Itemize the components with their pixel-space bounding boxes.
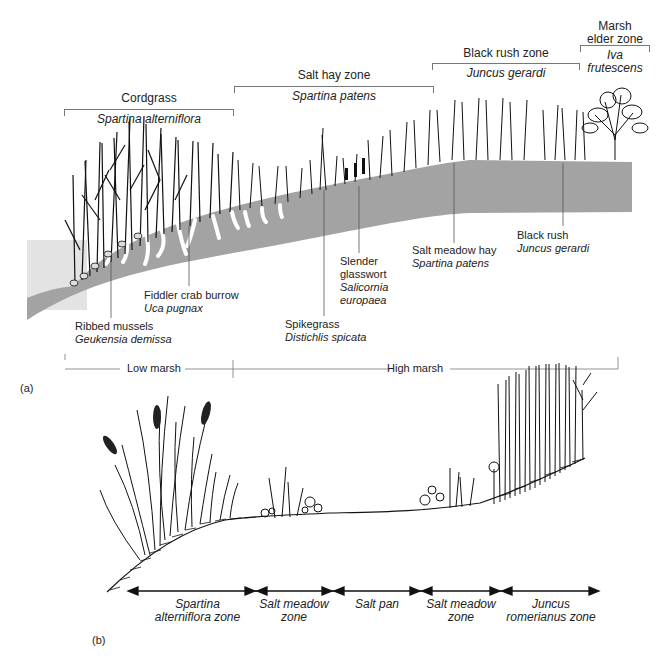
zone-b-salt-meadow-right-line2: zone <box>421 611 501 624</box>
zone-b-spartina-line2: alterniflora zone <box>140 611 255 624</box>
zone-b-juncus-line2: romerianus zone <box>501 611 601 624</box>
zone-b-salt-meadow-left-line2: zone <box>255 611 333 624</box>
zone-arrows <box>0 0 665 666</box>
zone-b-salt-pan: Salt pan <box>333 598 421 611</box>
panel-label-b: (b) <box>92 634 105 647</box>
